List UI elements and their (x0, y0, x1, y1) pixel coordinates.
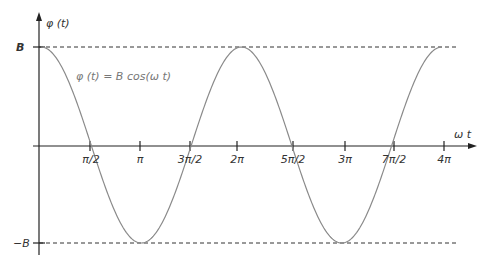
svg-text:2π: 2π (230, 153, 244, 166)
x-axis-arrow-icon (468, 143, 477, 149)
svg-text:5π/2: 5π/2 (281, 153, 305, 166)
svg-text:π: π (137, 153, 144, 166)
x-axis-label: ω t (454, 128, 472, 141)
svg-text:π/2: π/2 (82, 153, 99, 166)
y-axis-arrow-icon (36, 12, 42, 21)
upper-level-label: B (16, 41, 24, 54)
svg-text:7π/2: 7π/2 (382, 153, 406, 166)
svg-text:3π: 3π (338, 153, 352, 166)
y-axis-label: φ (t) (46, 17, 70, 30)
x-tick-labels: π/2 π 3π/2 2π 5π/2 3π 7π/2 4π (82, 153, 451, 166)
formula-annotation: φ (t) = B cos(ω t) (76, 70, 171, 83)
svg-text:4π: 4π (437, 153, 451, 166)
svg-text:3π/2: 3π/2 (178, 153, 202, 166)
lower-level-label: −B (13, 237, 30, 250)
cosine-plot: φ (t) B −B φ (t) = B cos(ω t) ω t π/2 π … (0, 0, 484, 269)
